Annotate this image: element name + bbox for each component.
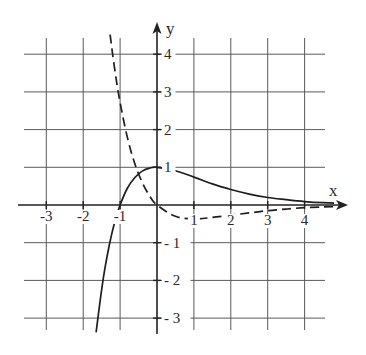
x-axis-label: x (329, 181, 338, 200)
function-plot: -3-2-112344321- 1- 2- 3 x y (0, 0, 366, 355)
tick-labels: -3-2-112344321- 1- 2- 3 (36, 46, 310, 326)
y-tick-label: 4 (164, 46, 172, 62)
x-tick-label: 4 (301, 212, 309, 228)
y-tick-label: - 2 (164, 272, 180, 288)
derivative-curve (110, 35, 334, 219)
series-layer (96, 35, 334, 333)
y-tick-label: 2 (164, 122, 172, 138)
x-tick-label: 2 (227, 212, 235, 228)
y-tick-label: 3 (164, 84, 172, 100)
y-tick-label: - 1 (164, 235, 180, 251)
y-axis-label: y (166, 19, 175, 38)
function-curve (96, 167, 334, 332)
x-tick-label: 3 (264, 212, 272, 228)
y-tick-label: 1 (164, 159, 172, 175)
x-tick-label: -1 (114, 208, 127, 224)
y-tick-label: - 3 (164, 310, 180, 326)
x-tick-label: 1 (190, 212, 198, 228)
x-tick-label: -2 (77, 208, 90, 224)
x-tick-label: -3 (40, 208, 53, 224)
